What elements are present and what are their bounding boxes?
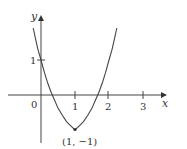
vertex-point: [73, 128, 76, 131]
vertex-label: (1, −1): [62, 136, 97, 147]
chart: y x 0 1 2 3 1 (1, −1): [0, 0, 187, 149]
y-tick-label-1: 1: [30, 55, 36, 66]
x-axis-label: x: [162, 97, 169, 110]
y-axis-label: y: [30, 10, 38, 23]
x-tick-label-1: 1: [72, 101, 78, 112]
origin-label: 0: [31, 99, 37, 110]
parabola-curve: [34, 29, 75, 130]
parabola: [33, 28, 117, 130]
x-tick-label-2: 2: [105, 101, 111, 112]
x-tick-label-3: 3: [140, 101, 146, 112]
